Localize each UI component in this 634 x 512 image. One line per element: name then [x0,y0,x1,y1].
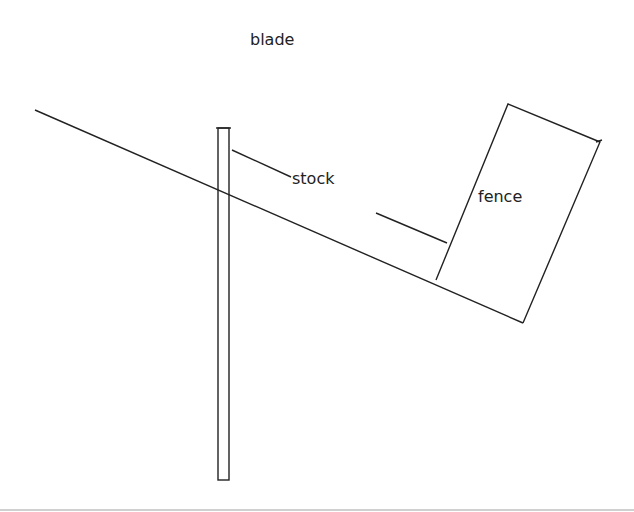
blade-line [35,110,523,323]
fence-outline [436,104,600,323]
stock-bar [218,128,229,480]
diagram-canvas [0,0,634,512]
fence-label: fence [478,189,522,205]
blade-label: blade [250,32,294,48]
fence-leader-line [376,213,447,243]
stock-leader-line [232,150,291,177]
stock-label: stock [292,171,334,187]
